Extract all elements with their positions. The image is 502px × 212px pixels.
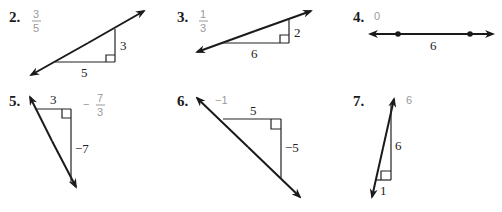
line-arrow-down xyxy=(52,141,76,187)
line-arrow-down xyxy=(197,31,255,52)
line-arrow-up xyxy=(255,11,311,31)
problem-4: 4. 0 6 xyxy=(353,9,493,53)
right-angle-mark xyxy=(381,171,391,180)
point-dot xyxy=(395,31,401,37)
problem-number: 2. xyxy=(9,9,21,25)
answer-numerator: 3 xyxy=(33,8,39,20)
rise-label: −7 xyxy=(75,141,89,156)
rise-label: 6 xyxy=(395,138,402,153)
slope-exercises-figure: 2. 3 5 3 5 3. 1 3 2 6 4. 0 6 5. − xyxy=(0,0,502,212)
answer-value: 0 xyxy=(374,10,380,22)
answer-denominator: 3 xyxy=(97,106,103,118)
problem-3: 3. 1 3 2 6 xyxy=(177,8,311,61)
problem-5: 5. − 7 3 3 −7 xyxy=(9,92,105,187)
right-angle-mark xyxy=(106,55,115,62)
line-arrow-up xyxy=(383,99,394,148)
rise-label: 2 xyxy=(294,25,301,40)
rise-label: 3 xyxy=(120,38,127,53)
answer-value: 6 xyxy=(406,94,412,106)
problem-number: 5. xyxy=(9,93,21,109)
problem-number: 6. xyxy=(177,93,189,109)
right-angle-mark xyxy=(62,109,71,118)
problem-2: 2. 3 5 3 5 xyxy=(9,8,144,80)
problem-number: 3. xyxy=(177,9,189,25)
answer-denominator: 5 xyxy=(33,22,39,34)
line-arrow-down xyxy=(31,43,88,75)
run-label: 1 xyxy=(380,183,387,198)
problem-6: 6. −1 5 −5 xyxy=(177,93,300,197)
problem-number: 4. xyxy=(353,9,365,25)
line-arrow-up xyxy=(30,97,52,141)
answer-numerator: 1 xyxy=(200,8,206,20)
right-angle-mark xyxy=(271,119,281,129)
answer-sign: − xyxy=(83,98,89,110)
run-label: 5 xyxy=(250,103,257,118)
line-arrow-up xyxy=(88,11,144,43)
run-label: 5 xyxy=(81,65,88,80)
run-label: 6 xyxy=(251,46,258,61)
problem-number: 7. xyxy=(353,93,365,109)
answer-numerator: 7 xyxy=(97,92,103,104)
point-dot xyxy=(467,31,473,37)
answer-denominator: 3 xyxy=(200,22,206,34)
rise-label: −5 xyxy=(285,140,299,155)
answer-value: −1 xyxy=(215,94,228,106)
run-label: 6 xyxy=(430,38,437,53)
problem-7: 7. 6 6 1 xyxy=(353,93,412,198)
run-label: 3 xyxy=(50,92,57,107)
right-angle-mark xyxy=(280,35,289,43)
